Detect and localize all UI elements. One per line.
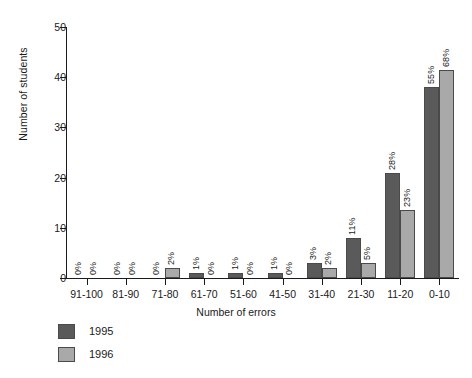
bar-1995-51-60 (228, 273, 243, 278)
y-axis-tick-label: 40 (40, 72, 66, 82)
bar-group: 1%0% (224, 27, 263, 278)
bar-group: 11%5% (341, 27, 380, 278)
x-axis-tick (87, 279, 88, 285)
bar-value-label: 2% (324, 252, 333, 265)
y-axis-tick-label-wrap: 50 (26, 27, 66, 28)
x-axis-tick (243, 279, 244, 285)
bar-value-label: 0% (207, 262, 216, 275)
legend-swatch (58, 347, 75, 362)
x-axis-tick (126, 279, 127, 285)
bar-1996-11-20 (400, 210, 415, 278)
bar-group: 3%2% (302, 27, 341, 278)
chart-legend: 19951996 (58, 324, 113, 370)
bar-1995-41-50 (268, 273, 283, 278)
x-axis-tick (283, 279, 284, 285)
bar-value-label: 1% (231, 257, 240, 270)
bar-group: 0%2% (145, 27, 184, 278)
y-axis-title: Number of students (17, 19, 29, 169)
bar-chart: Number of students 01020304050 0%0%0%0%0… (0, 0, 472, 378)
x-axis-tick (439, 279, 440, 285)
bar-1996-71-80 (165, 268, 180, 278)
y-axis-tick-label: 10 (40, 223, 66, 233)
bar-1995-61-70 (189, 273, 204, 278)
y-axis-tick-label-wrap: 40 (26, 77, 66, 78)
y-axis-tick-label-wrap: 0 (26, 278, 66, 279)
bar-value-label: 1% (192, 257, 201, 270)
bar-value-label: 28% (388, 151, 397, 169)
bar-value-label: 2% (167, 252, 176, 265)
y-axis-tick-label: 50 (40, 22, 66, 32)
bar-value-label: 1% (270, 257, 279, 270)
bar-group: 0%0% (67, 27, 106, 278)
bar-1996-31-40 (322, 268, 337, 278)
bar-value-label: 0% (128, 262, 137, 275)
bar-1995-21-30 (346, 238, 361, 278)
x-axis-tick (204, 279, 205, 285)
bar-1996-21-30 (361, 263, 376, 278)
bar-value-label: 68% (442, 48, 451, 66)
bar-1995-0-10 (424, 87, 439, 278)
y-axis-tick-label: 20 (40, 173, 66, 183)
bar-value-label: 0% (246, 262, 255, 275)
bar-value-label: 0% (113, 262, 122, 275)
bar-value-label: 23% (403, 189, 412, 207)
bar-group: 55%68% (420, 27, 459, 278)
x-axis-tick-label: 0-10 (409, 289, 469, 300)
bar-group: 1%0% (263, 27, 302, 278)
bar-value-label: 3% (309, 247, 318, 260)
bar-value-label: 0% (74, 262, 83, 275)
legend-item: 1996 (58, 347, 113, 362)
legend-label: 1996 (89, 349, 113, 360)
legend-swatch (58, 324, 75, 339)
y-axis-tick-label-wrap: 30 (26, 127, 66, 128)
x-axis-tick (361, 279, 362, 285)
bar-value-label: 0% (89, 262, 98, 275)
bar-value-label: 5% (363, 247, 372, 260)
bar-group: 0%0% (106, 27, 145, 278)
x-axis-title: Number of errors (0, 306, 472, 318)
x-axis-tick (165, 279, 166, 285)
bar-group: 28%23% (381, 27, 420, 278)
y-axis-tick-label: 0 (40, 273, 66, 283)
bar-value-label: 11% (348, 217, 357, 235)
legend-label: 1995 (89, 326, 113, 337)
x-axis-tick (400, 279, 401, 285)
bar-1995-11-20 (385, 173, 400, 278)
plot-area: 0%0%0%0%0%2%1%0%1%0%1%0%3%2%11%5%28%23%5… (67, 27, 459, 278)
bar-value-label: 0% (152, 262, 161, 275)
bar-value-label: 0% (285, 262, 294, 275)
bar-1996-0-10 (439, 70, 454, 278)
y-axis-tick-label: 30 (40, 122, 66, 132)
bar-group: 1%0% (185, 27, 224, 278)
bar-value-label: 55% (427, 66, 436, 84)
y-axis-tick-label-wrap: 10 (26, 228, 66, 229)
legend-item: 1995 (58, 324, 113, 339)
y-axis-tick-label-wrap: 20 (26, 178, 66, 179)
x-axis-tick (322, 279, 323, 285)
bar-1995-31-40 (307, 263, 322, 278)
